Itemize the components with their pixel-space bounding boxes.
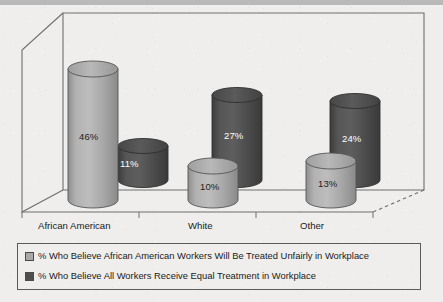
axis-ticks — [22, 212, 373, 218]
legend-item-equal-treatment: % Who Believe All Workers Receive Equal … — [25, 271, 316, 281]
legend-label-equal-treatment: % Who Believe All Workers Receive Equal … — [38, 271, 316, 281]
cylinder-top-ellipse — [306, 153, 356, 169]
legend-item-unfairly: % Who Believe African American Workers W… — [25, 251, 369, 261]
chart-page: 46% 11% 27% 10% 24% 13% African American… — [0, 0, 443, 302]
cylinder-top-ellipse — [330, 94, 380, 109]
axis-category-label-other: Other — [300, 220, 324, 231]
bar-value-label-other-light: 13% — [318, 178, 337, 189]
cylinder-top-ellipse — [188, 158, 238, 174]
bar-value-label-african-american-dark: 11% — [120, 158, 139, 169]
axis-category-label-white: White — [188, 220, 213, 231]
axis-category-label-african-american: African American — [38, 220, 111, 231]
floor-right-dashed-edge — [373, 190, 424, 212]
bar-value-label-african-american-light: 46% — [79, 131, 98, 142]
light-gray-swatch-icon — [25, 252, 34, 261]
chart-legend: % Who Believe African American Workers W… — [17, 243, 421, 290]
bar-value-label-white-dark: 27% — [224, 130, 243, 141]
bar-value-label-other-dark: 24% — [342, 133, 361, 144]
cylinder-top-ellipse — [118, 139, 168, 154]
left-wall — [22, 13, 63, 212]
cylinder-top-ellipse — [212, 88, 262, 103]
dark-gray-swatch-icon — [25, 272, 34, 281]
cylinder-top-ellipse — [68, 61, 118, 77]
chart-plot-area: 46% 11% 27% 10% 24% 13% African American… — [0, 0, 443, 232]
legend-label-unfairly: % Who Believe African American Workers W… — [38, 251, 369, 261]
chart-svg — [0, 0, 443, 232]
bar-value-label-white-light: 10% — [200, 181, 219, 192]
